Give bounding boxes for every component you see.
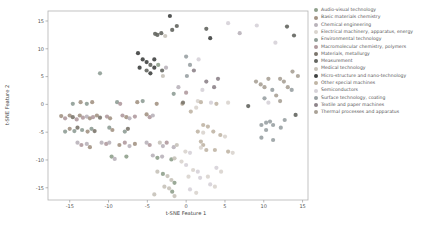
- scatter-point: [218, 133, 222, 137]
- scatter-point: [184, 163, 188, 167]
- scatter-point: [201, 123, 205, 127]
- scatter-point: [259, 82, 263, 86]
- legend: Audio-visual technologyBasic materials c…: [314, 8, 413, 115]
- legend-marker-icon: [314, 110, 318, 114]
- legend-item: Chemical engineering: [314, 23, 413, 28]
- legend-item: Other special machines: [314, 81, 413, 86]
- legend-marker-icon: [314, 8, 318, 12]
- scatter-point: [204, 80, 208, 84]
- scatter-point: [188, 151, 192, 155]
- scatter-point: [159, 31, 163, 35]
- scatter-point: [211, 130, 215, 134]
- scatter-point: [75, 126, 79, 130]
- scatter-point: [120, 113, 124, 117]
- scatter-point: [155, 156, 159, 160]
- scatter-point: [108, 116, 112, 120]
- scatter-point: [79, 100, 83, 104]
- scatter-point: [91, 115, 95, 119]
- scatter-point: [231, 151, 235, 155]
- scatter-point: [204, 27, 208, 31]
- scatter-point: [117, 143, 121, 147]
- x-tick-label: 15: [299, 203, 305, 209]
- scatter-point: [259, 123, 263, 127]
- scatter-point: [158, 141, 162, 145]
- y-tick-label: 15: [38, 18, 44, 24]
- x-tick-label: 10: [261, 203, 267, 209]
- x-tick-label: -15: [66, 203, 74, 209]
- scatter-point: [145, 60, 149, 64]
- scatter-point: [196, 170, 200, 174]
- scatter-point: [152, 192, 156, 196]
- scatter-point: [68, 127, 72, 131]
- scatter-point: [226, 101, 230, 105]
- legend-item: Semiconductors: [314, 88, 413, 93]
- scatter-point: [127, 116, 131, 120]
- scatter-point: [201, 131, 205, 135]
- legend-item-label: Other special machines: [321, 81, 375, 86]
- scatter-point: [274, 93, 278, 97]
- scatter-point: [271, 138, 275, 142]
- scatter-point: [294, 113, 298, 117]
- legend-marker-icon: [314, 59, 318, 63]
- scatter-point: [219, 170, 223, 174]
- scatter-point: [197, 57, 201, 61]
- x-tick-label: 0: [185, 203, 188, 209]
- legend-item: Environmental technology: [314, 37, 413, 42]
- legend-item-label: Materials, metallurgy: [321, 52, 370, 57]
- scatter-point: [268, 120, 272, 124]
- scatter-point: [283, 118, 287, 122]
- scatter-point: [63, 116, 67, 120]
- scatter-point: [161, 74, 165, 78]
- x-tick-label: -5: [145, 203, 150, 209]
- scatter-point: [192, 68, 196, 72]
- x-tick-label: -10: [104, 203, 112, 209]
- scatter-point: [266, 77, 270, 81]
- scatter-point: [188, 187, 192, 191]
- legend-item: Electrical machinery, apparatus, energy: [314, 30, 413, 35]
- scatter-point: [59, 114, 63, 118]
- scatter-point: [151, 153, 155, 157]
- scatter-point: [86, 130, 90, 134]
- legend-marker-icon: [314, 45, 318, 49]
- legend-item-label: Semiconductors: [321, 88, 358, 93]
- y-tick-label: -5: [39, 129, 44, 135]
- scatter-point: [183, 150, 187, 154]
- scatter-point: [156, 63, 160, 67]
- tsne-figure: -15-10-5051015-15-10-5051015 t-SNE Featu…: [0, 0, 445, 231]
- legend-marker-icon: [314, 38, 318, 42]
- scatter-point: [172, 156, 176, 160]
- scatter-point: [175, 24, 179, 28]
- scatter-point: [164, 66, 168, 70]
- legend-marker-icon: [314, 81, 318, 85]
- scatter-point: [259, 136, 263, 140]
- scatter-point: [79, 143, 83, 147]
- scatter-point: [206, 125, 210, 129]
- scatter-point: [214, 102, 218, 106]
- scatter-point: [127, 144, 131, 148]
- legend-marker-icon: [314, 67, 318, 71]
- legend-item-label: Micro-structure and nano-technology: [321, 74, 406, 79]
- scatter-point: [184, 55, 188, 59]
- scatter-point: [181, 101, 185, 105]
- legend-marker-icon: [314, 30, 318, 34]
- scatter-point: [282, 80, 286, 84]
- scatter-point: [179, 160, 183, 164]
- scatter-point: [188, 63, 192, 67]
- scatter-point: [214, 166, 218, 170]
- scatter-point: [209, 101, 213, 105]
- scatter-point: [212, 85, 216, 89]
- scatter-point: [98, 116, 102, 120]
- scatter-point: [296, 74, 300, 78]
- scatter-point: [208, 36, 212, 40]
- scatter-point: [172, 194, 176, 198]
- y-tick-label: 5: [41, 73, 44, 79]
- legend-item: Basic materials chemistry: [314, 15, 413, 20]
- scatter-point: [151, 113, 155, 117]
- scatter-point: [270, 88, 274, 92]
- scatter-point: [170, 190, 174, 194]
- scatter-point: [93, 129, 97, 133]
- scatter-point: [167, 186, 171, 190]
- scatter-point: [138, 66, 142, 70]
- legend-marker-icon: [314, 96, 318, 100]
- scatter-point: [185, 74, 189, 78]
